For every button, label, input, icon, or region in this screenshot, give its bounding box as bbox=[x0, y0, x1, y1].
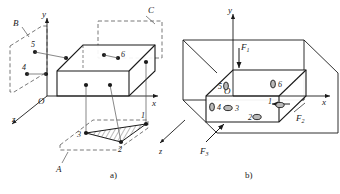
caption-a: a) bbox=[110, 170, 117, 180]
axis-x-label-b: x bbox=[321, 97, 326, 107]
locator-5 bbox=[224, 82, 229, 90]
locator-label-1: 1 bbox=[268, 97, 272, 106]
locator-label-4: 4 bbox=[217, 103, 221, 112]
force-f3-label: F3 bbox=[199, 146, 209, 157]
point-dot-3 bbox=[84, 131, 88, 135]
axis-z-label-a: z bbox=[11, 114, 16, 124]
plane-c-label: C bbox=[148, 5, 155, 15]
force-f2-subscript: 2 bbox=[302, 118, 305, 124]
force-f1-subscript: 1 bbox=[247, 47, 250, 53]
locator-label-3: 3 bbox=[234, 104, 239, 113]
point-dot-block-3 bbox=[84, 83, 88, 87]
locator-label-5: 5 bbox=[218, 82, 222, 91]
point-dot-1 bbox=[144, 122, 148, 126]
point-dot-block-1 bbox=[144, 60, 148, 64]
force-f1-label: F1 bbox=[240, 42, 250, 53]
point-label-2: 2 bbox=[118, 145, 122, 154]
locator-4 bbox=[210, 103, 215, 111]
support-triangle bbox=[86, 124, 146, 142]
axis-x-label-a: x bbox=[151, 98, 156, 108]
panel-b: y x O F1 F2 F3 1 2 3 4 5 6 b) bbox=[183, 5, 338, 180]
point-label-5: 5 bbox=[31, 40, 35, 49]
axis-z2-a bbox=[160, 120, 185, 143]
point-dot-block-2 bbox=[108, 83, 112, 87]
plane-b-label: B bbox=[13, 18, 19, 28]
figure-container: C B A y x z O bbox=[0, 0, 340, 194]
locator-6 bbox=[271, 80, 276, 88]
panel-a: C B A y x z O bbox=[10, 5, 185, 180]
force-f3-subscript: 3 bbox=[205, 151, 209, 157]
point-label-4: 4 bbox=[22, 63, 26, 72]
point-label-1: 1 bbox=[141, 111, 145, 120]
locator-2 bbox=[253, 114, 261, 119]
technical-diagram: C B A y x z O bbox=[0, 0, 340, 194]
locator-label-6: 6 bbox=[278, 80, 282, 89]
plane-a-leader bbox=[62, 152, 68, 163]
locator-label-2: 2 bbox=[248, 113, 252, 122]
force-f2-label: F2 bbox=[295, 113, 305, 124]
locator-1 bbox=[276, 102, 284, 107]
point-label-6: 6 bbox=[121, 50, 125, 59]
locator-3 bbox=[224, 105, 232, 110]
plane-a-label: A bbox=[55, 164, 62, 174]
axis-y-label-a: y bbox=[41, 9, 46, 19]
point-label-3: 3 bbox=[76, 130, 81, 139]
axis-y-label-b: y bbox=[227, 5, 232, 15]
caption-b: b) bbox=[245, 170, 253, 180]
plane-c-leader bbox=[146, 16, 155, 24]
point-dot-2 bbox=[119, 140, 123, 144]
plane-b-leader bbox=[22, 27, 29, 37]
origin-label-a: O bbox=[38, 96, 45, 106]
axis-z2-label-a: z bbox=[158, 147, 163, 156]
